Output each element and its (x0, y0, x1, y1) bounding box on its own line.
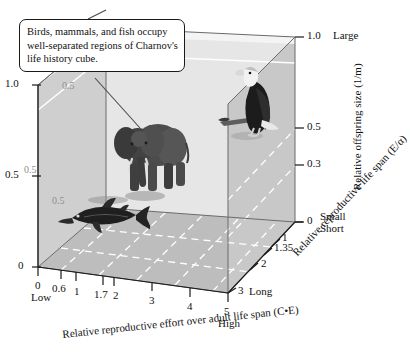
z-tick-2: 2 (261, 258, 267, 270)
y-axis-high-label: Large (333, 30, 358, 42)
callout-text: Birds, mammals, and fish occupy well-sep… (27, 25, 178, 66)
y-right-tick-03: 0.3 (307, 158, 321, 170)
x-tick-3: 3 (149, 295, 155, 307)
y-left-tick-0: 0 (18, 260, 24, 272)
y-right-tick-05: 0.5 (307, 121, 321, 133)
x-tick-06: 0.6 (52, 283, 66, 295)
y-left-tick-1: 1.0 (5, 78, 19, 90)
x-tick-0: 0 (35, 280, 41, 292)
x-tick-1: 1 (74, 286, 80, 298)
z-tick-3: 3 (238, 285, 244, 297)
back-wall-gridline-label: 0.5 (62, 81, 75, 92)
fish-marker (58, 196, 150, 236)
z-axis-high-label: Long (249, 286, 272, 298)
elephant-marker (108, 113, 190, 195)
y-right-tick-1: 1.0 (307, 30, 321, 42)
callout-box: Birds, mammals, and fish occupy well-sep… (19, 19, 185, 72)
x-tick-2: 2 (113, 290, 119, 302)
y-left-tick-05: 0.5 (5, 169, 19, 181)
x-tick-17: 1.7 (94, 289, 108, 301)
y-axis-right (295, 37, 304, 222)
x-tick-4: 4 (187, 301, 193, 313)
left-wall-gridline-label: 0.5 (24, 165, 37, 176)
x-axis-low-label: Low (31, 292, 51, 304)
eagle-marker (218, 62, 280, 138)
